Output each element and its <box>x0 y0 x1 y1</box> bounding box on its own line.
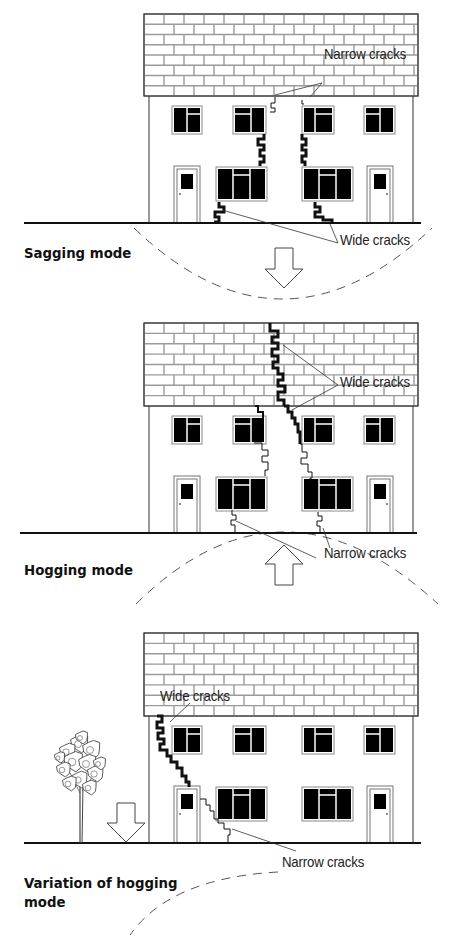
arrow-down-icon <box>265 248 303 288</box>
door <box>367 476 393 533</box>
upper-window <box>233 416 266 444</box>
narrow-crack <box>300 444 312 482</box>
door-knob <box>179 813 181 815</box>
door <box>367 786 393 843</box>
door <box>367 166 393 223</box>
upper-window <box>302 726 334 754</box>
mode-label-variation-line2: mode <box>24 893 178 912</box>
upper-window <box>172 106 202 134</box>
mode-label-hogging: Hogging mode <box>24 561 133 580</box>
lower-window <box>302 477 353 511</box>
door-knob <box>386 813 388 815</box>
callout-wide-cracks-variation: Wide cracks <box>160 687 230 704</box>
door-glass <box>374 794 386 809</box>
wide-crack <box>302 134 306 166</box>
mode-label-variation: Variation of hogging mode <box>24 874 178 912</box>
wide-crack <box>315 202 332 223</box>
diagram-canvas <box>0 0 453 941</box>
tree-icon <box>54 731 105 843</box>
arrow-down-icon <box>107 803 145 842</box>
door <box>174 476 200 533</box>
lower-window <box>216 787 267 821</box>
upper-window <box>364 106 395 134</box>
callout-narrow-cracks-hogging: Narrow cracks <box>324 544 406 561</box>
door <box>174 786 200 843</box>
upper-window <box>233 726 266 754</box>
door-glass <box>374 174 386 189</box>
narrow-crack <box>302 100 304 104</box>
upper-window <box>364 416 395 444</box>
narrow-crack <box>317 512 322 533</box>
narrow-crack <box>254 443 268 476</box>
upper-window <box>172 726 202 754</box>
wide-crack <box>284 406 300 444</box>
wide-crack <box>258 134 264 166</box>
door-glass <box>374 484 386 499</box>
narrow-crack <box>231 510 236 533</box>
mode-label-variation-line1: Variation of hogging <box>24 874 178 893</box>
callout-narrow-cracks-variation: Narrow cracks <box>282 853 364 870</box>
building-movement-diagram: Narrow cracks Wide cracks Sagging mode W… <box>0 0 453 941</box>
roof-tiles <box>144 323 418 406</box>
lower-window <box>302 167 353 201</box>
door-knob <box>386 503 388 505</box>
upper-window <box>172 416 202 444</box>
mode-label-sagging: Sagging mode <box>24 244 131 263</box>
callout-leader <box>330 224 338 243</box>
upper-window <box>233 106 266 134</box>
callout-leader <box>232 829 296 851</box>
wide-crack <box>214 202 224 222</box>
narrow-crack <box>270 97 275 112</box>
lower-window <box>216 167 267 201</box>
door-knob <box>179 193 181 195</box>
door-glass <box>181 794 193 809</box>
door-glass <box>181 174 193 189</box>
door <box>174 166 200 223</box>
door-knob <box>179 503 181 505</box>
upper-window <box>364 726 395 754</box>
callout-narrow-cracks-sagging: Narrow cracks <box>324 45 406 62</box>
lower-window <box>302 787 353 821</box>
callout-leader <box>222 210 338 243</box>
upper-window <box>302 106 334 134</box>
callout-wide-cracks-sagging: Wide cracks <box>340 231 410 248</box>
upper-window <box>302 416 334 444</box>
door-glass <box>181 484 193 499</box>
door-knob <box>386 193 388 195</box>
arrow-up-icon <box>265 545 303 585</box>
lower-window <box>216 477 267 511</box>
callout-wide-cracks-hogging: Wide cracks <box>340 373 410 390</box>
